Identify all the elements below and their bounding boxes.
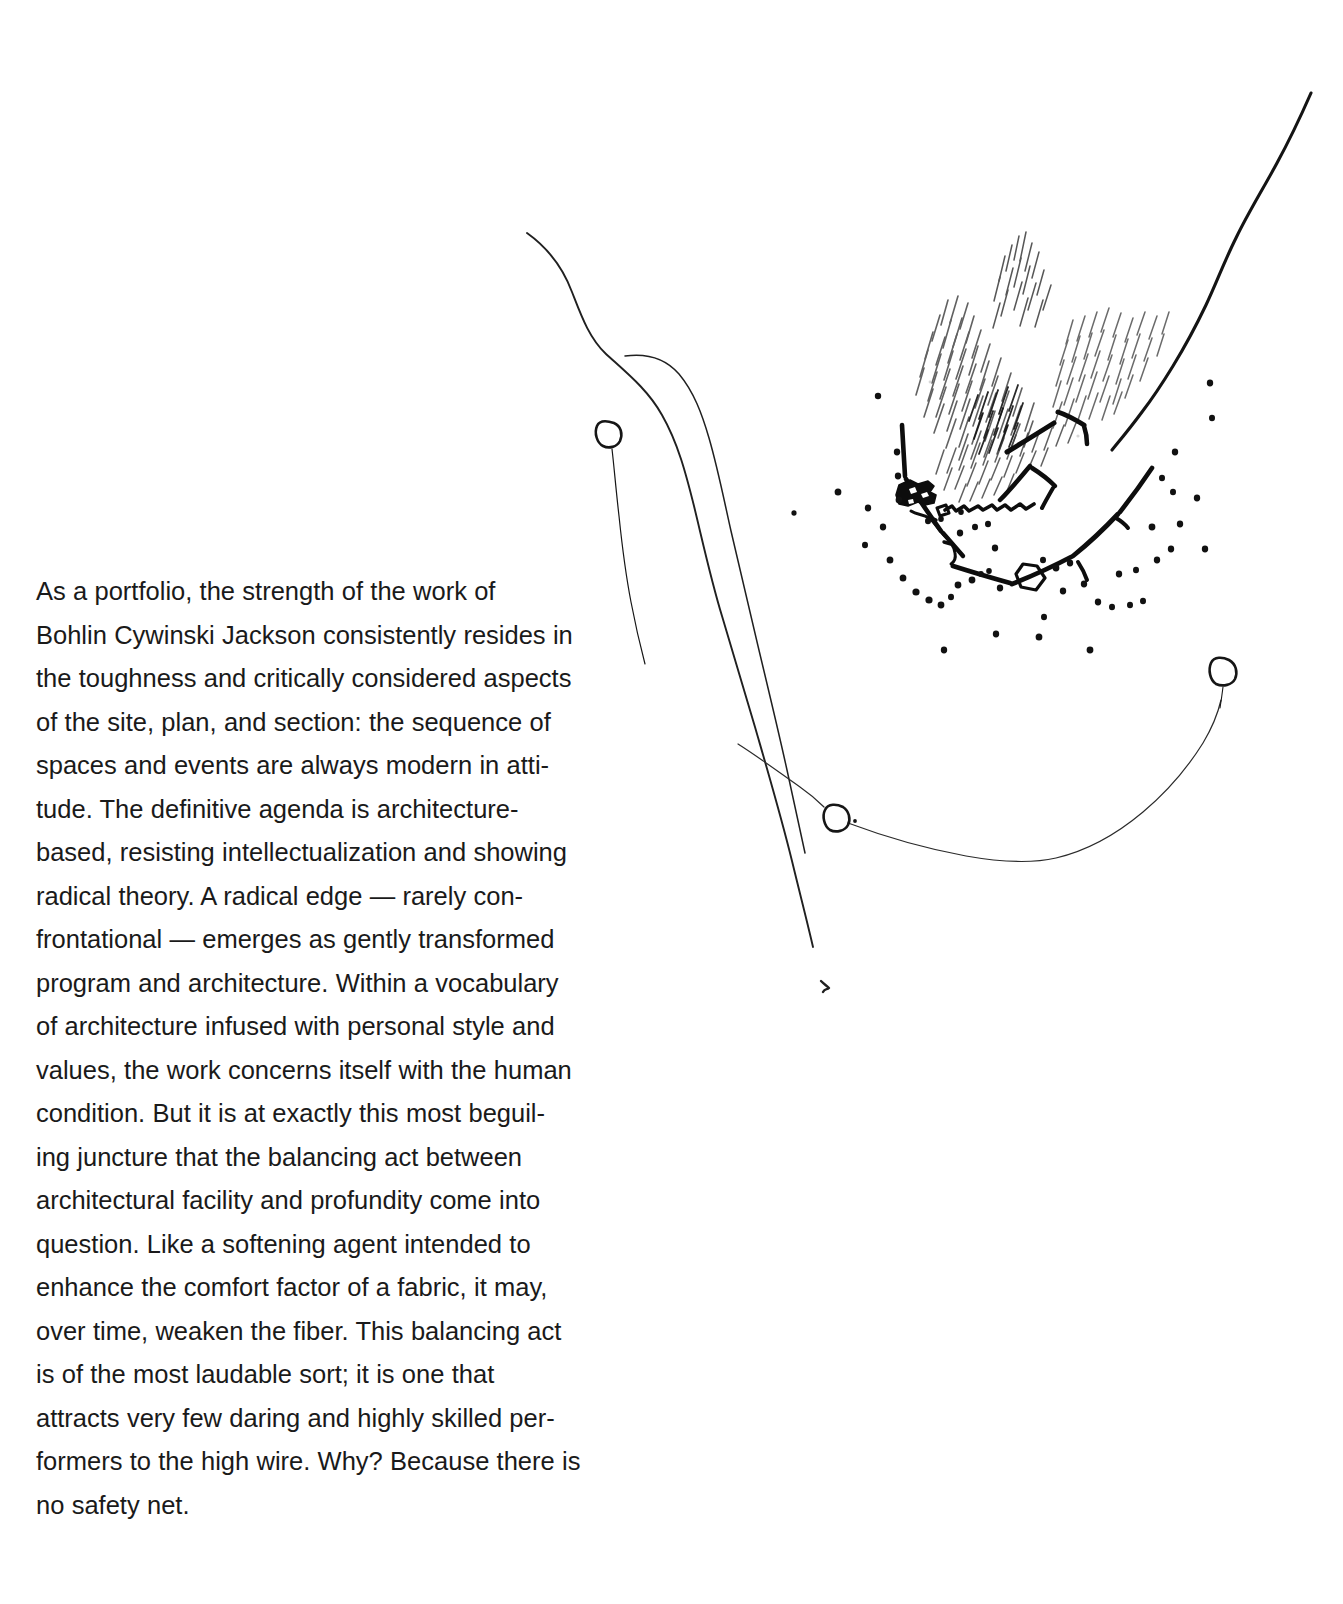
enclosure-wall-base-right [1012,557,1071,584]
wall-tick-1 [929,517,936,520]
survey-dot-lower-left [853,819,857,823]
bold-building-enclosure-lines [902,412,1152,584]
road-bold-path [1112,93,1311,450]
enclosure-wall-right-upper [1120,468,1152,512]
tree-dot [1202,546,1208,553]
tree-dot [1116,571,1122,578]
tree-dot [938,516,944,522]
tree-dot [1081,581,1087,588]
building-roof-diagonal [1000,466,1030,500]
building-inner-void-3 [908,499,914,504]
tree-dot [1170,489,1176,495]
hatch-cluster-left-lobe [916,296,1034,460]
building-stepped-edge [945,504,1034,511]
enclosure-wall-base [953,566,1010,583]
enclosure-wall-left [902,425,905,476]
tree-dot [1109,604,1115,610]
tree-dot [887,556,894,563]
tree-dot [1209,415,1215,421]
tree-dot [997,585,1003,592]
tree-dot [900,574,907,581]
tree-dot [978,571,984,577]
page-title: As a portfolio, the strength of the work… [36,570,616,1527]
tree-dot [912,588,919,595]
tree-dot [1133,567,1139,573]
survey-circle-upper-left-tail [612,449,645,664]
tree-dot [985,521,991,527]
tree-dot [1194,495,1200,502]
pentagon-structure [1016,564,1045,590]
tree-dot [1087,647,1094,654]
paper-speck [929,381,932,384]
hatch-cluster-dark-core [969,385,1023,454]
road-bold-curve-upper-right [1112,93,1311,450]
tree-dot [1060,588,1066,595]
tree-dot [925,596,932,603]
tree-dot [875,393,881,399]
book-page: As a portfolio, the strength of the work… [0,0,1343,1604]
tree-dot [972,524,978,530]
north-arrow-tick [821,981,829,992]
tree-dot [986,568,992,574]
tree-dot [969,577,976,584]
building-roof-ridge [1032,468,1055,486]
tree-dot [1207,380,1213,387]
enclosure-wall-base-left [943,533,963,556]
tree-dot [1041,614,1047,620]
tree-dot [925,518,931,524]
building-inner-void-2 [921,492,929,498]
enclosure-wall-right-cap [1078,562,1087,580]
dark-building-footprint [896,480,955,564]
tree-dot [791,510,796,516]
pentagon-outline [1016,564,1045,590]
tree-dot [894,449,900,456]
enclosure-wall-right [1073,514,1118,556]
tree-dot [938,602,945,609]
tree-dot [880,524,886,531]
tree-dot [1040,557,1046,563]
wall-tick-2 [944,542,951,544]
tree-dot [1140,598,1146,604]
hatch-cluster-right-lobe [1053,308,1169,428]
tree-dot [955,582,962,589]
survey-circle-right-tail [1220,687,1223,708]
tree-dot [1159,475,1165,481]
contour-arc-left-segment [738,744,824,807]
tree-dot [1067,560,1073,567]
tree-dot [895,473,901,480]
building-inner-void-1 [909,487,917,494]
enclosure-wall-upper-return [1084,426,1087,444]
building-access-path [911,511,955,564]
tree-dot [896,497,903,504]
tree-dot [1036,633,1043,640]
pencil-hatching-vegetation-mass [916,232,1169,502]
text-column: As a portfolio, the strength of the work… [36,570,616,1527]
tree-dot [862,542,868,548]
enclosure-wall-left-lower [906,479,941,531]
tree-dot [1149,524,1156,531]
tree-dot [1172,449,1178,456]
tree-dot [835,488,842,495]
tree-dot [1053,565,1060,572]
tree-dot [992,545,998,552]
enclosure-wall-upper-right [1058,412,1084,425]
tree-dot [865,505,871,512]
tree-dot [957,530,963,537]
enclosure-wall-right-cap2 [1116,518,1128,528]
building-square-notch [937,505,949,516]
tree-dot [1154,557,1160,564]
paper-speck [1076,434,1079,437]
survey-circle-right [1210,658,1237,686]
tree-dot [1127,602,1133,608]
tree-dot [941,647,947,654]
hatch-cluster-lower-fringe [936,423,1076,502]
tree-dot [1177,521,1183,528]
paper-specks [929,381,1080,438]
building-solid-mass [896,480,936,506]
building-tail-stroke [1042,488,1053,508]
enclosure-wall-upper-diag [1007,423,1054,452]
survey-circle-lower-left [824,805,850,832]
contour-arc-main [848,700,1221,862]
tree-dot [948,594,954,600]
tree-dot [993,631,999,638]
